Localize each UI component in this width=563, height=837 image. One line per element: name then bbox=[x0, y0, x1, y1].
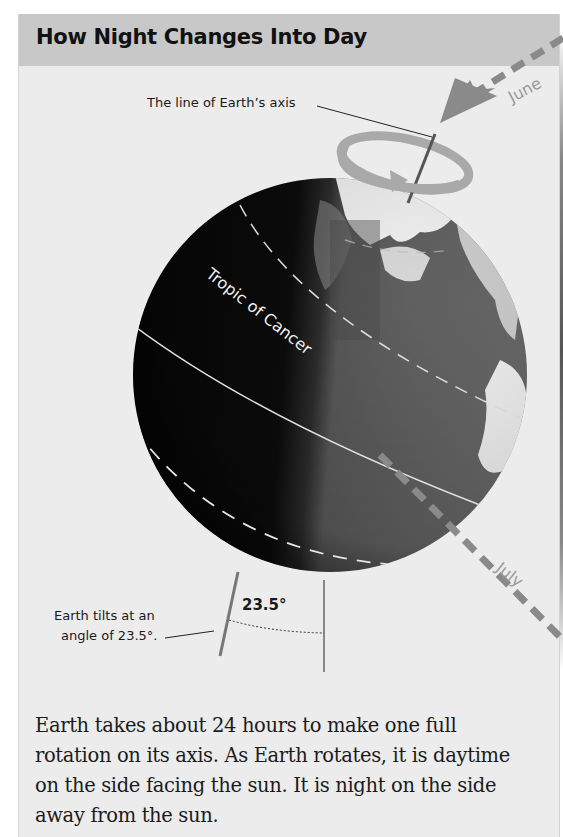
earth-axis-bottom bbox=[220, 572, 238, 656]
tilt-label-line2: angle of 23.5°. bbox=[61, 628, 157, 643]
tilt-leader-line bbox=[165, 631, 214, 638]
tilt-label-line1: Earth tilts at an bbox=[54, 608, 155, 623]
orbit-path-top bbox=[440, 38, 563, 123]
earth-rotation-diagram: June Tropic of Cancer July The l bbox=[0, 0, 563, 700]
caption-text: Earth takes about 24 hours to make one f… bbox=[35, 711, 535, 831]
angle-value: 23.5° bbox=[242, 596, 287, 614]
axis-label: The line of Earth’s axis bbox=[146, 95, 296, 110]
month-label-july: July bbox=[492, 558, 527, 591]
month-label-june: June bbox=[504, 73, 545, 107]
earth-globe bbox=[133, 173, 527, 572]
orbit-arrowhead-icon bbox=[440, 78, 497, 123]
tilt-angle-arc bbox=[229, 620, 324, 633]
